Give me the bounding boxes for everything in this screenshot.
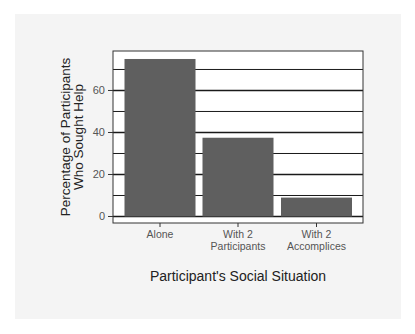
y-axis-ticks: 0204060 <box>93 84 113 222</box>
bar-chart: 0204060 AloneWith 2ParticipantsWith 2Acc… <box>0 0 415 334</box>
x-axis-ticks: AloneWith 2ParticipantsWith 2Accomplices <box>147 223 346 252</box>
bar <box>203 138 274 217</box>
y-axis-label-line: Who Sought Help <box>71 84 86 190</box>
y-tick-label: 40 <box>93 126 105 138</box>
y-tick-label: 20 <box>93 168 105 180</box>
y-axis-label: Percentage of ParticipantsWho Sought Hel… <box>58 58 86 217</box>
bar <box>125 59 196 217</box>
x-tick-label: With 2 <box>223 228 253 240</box>
x-tick-label: Accomplices <box>287 240 346 252</box>
y-tick-label: 0 <box>99 210 105 222</box>
x-tick-label: Participants <box>211 240 266 252</box>
x-tick-label: With 2 <box>302 228 332 240</box>
y-tick-label: 60 <box>93 84 105 96</box>
bar <box>281 198 352 217</box>
x-tick-label: Alone <box>147 228 174 240</box>
x-axis-label: Participant's Social Situation <box>150 268 326 284</box>
